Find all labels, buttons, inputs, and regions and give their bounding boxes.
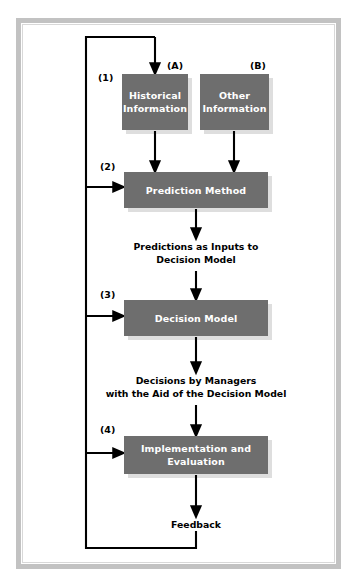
step-label-2: (2) [100, 161, 115, 172]
node-historical-information: Historical Information [122, 74, 188, 130]
caption-decisions-by-managers: Decisions by Managers with the Aid of th… [94, 374, 298, 400]
figure-root: (1) (2) (3) (4) (A) (B) Historical Infor… [0, 0, 359, 587]
caption-predictions-as-inputs: Predictions as Inputs to Decision Model [104, 240, 288, 266]
step-label-4: (4) [100, 424, 115, 435]
caption-feedback: Feedback [124, 518, 268, 531]
flowchart-diagram: (1) (2) (3) (4) (A) (B) Historical Infor… [0, 0, 359, 587]
panel-label-a: (A) [167, 60, 183, 71]
node-implementation-and-evaluation: Implementation and Evaluation [124, 436, 268, 474]
step-label-1: (1) [98, 72, 113, 83]
step-label-3: (3) [100, 289, 115, 300]
node-prediction-method: Prediction Method [124, 172, 268, 208]
panel-label-b: (B) [250, 60, 266, 71]
node-other-information: Other Information [200, 74, 269, 130]
node-decision-model: Decision Model [124, 300, 268, 336]
